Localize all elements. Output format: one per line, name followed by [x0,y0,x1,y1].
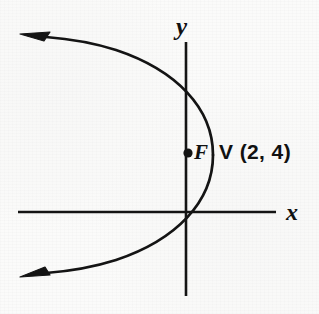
parabola-curve-lower [46,155,213,273]
focus-point-marker [183,148,192,157]
vertex-point-label: V (2, 4) [219,141,291,162]
x-axis-label: x [286,200,298,224]
focus-point-label: F [194,142,208,163]
parabola-figure: y x F V (2, 4) [0,0,319,314]
lower-branch-arrowhead-icon [20,267,50,277]
parabola-curve [46,37,213,155]
upper-branch-arrowhead-icon [20,32,50,41]
y-axis-label: y [176,14,187,39]
